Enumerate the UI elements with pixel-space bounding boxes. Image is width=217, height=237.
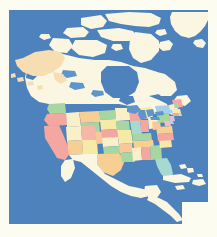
state-WA <box>47 103 66 114</box>
state-OK <box>103 146 122 154</box>
state-NC <box>157 133 174 141</box>
state-SD <box>100 119 117 130</box>
margin-bottom <box>0 224 217 237</box>
state-ID <box>66 112 81 127</box>
north-america-map-svg[interactable] <box>9 10 208 224</box>
margin-left <box>0 0 9 237</box>
state-AR <box>119 143 133 153</box>
state-KY <box>132 133 152 141</box>
margin-top <box>0 0 217 10</box>
state-NV <box>66 126 82 141</box>
state-CT <box>172 113 179 116</box>
margin-right <box>208 0 217 237</box>
state-NJ <box>169 116 175 121</box>
map-viewport[interactable] <box>9 10 208 224</box>
state-ND <box>99 110 116 120</box>
lake-erie <box>150 117 160 120</box>
state-MT <box>79 111 101 123</box>
state-MS <box>132 147 142 161</box>
state-KS <box>102 137 119 147</box>
state-AZ <box>67 140 83 155</box>
state-OR <box>44 113 67 126</box>
state-IL <box>130 121 142 134</box>
state-NM <box>82 140 98 155</box>
state-MO <box>117 130 133 144</box>
map-figure <box>0 0 217 237</box>
state-IN <box>140 120 149 132</box>
state-MD <box>164 121 171 126</box>
state-MA <box>173 109 181 113</box>
state-AL <box>141 147 151 160</box>
state-UT <box>81 126 96 140</box>
state-NE <box>101 129 118 138</box>
margin-bottom-right-notch <box>182 202 208 224</box>
state-IA <box>116 121 130 130</box>
island-turks <box>197 174 203 177</box>
